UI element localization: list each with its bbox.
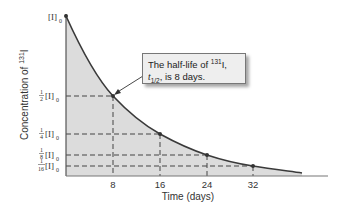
svg-text:1: 1 — [40, 158, 43, 164]
svg-text:0: 0 — [56, 156, 59, 162]
svg-text:0: 0 — [56, 167, 59, 173]
half-life-chart: 8 16 24 32 Time (days) [I] 0 1 2 [I] 0 1… — [0, 0, 345, 207]
svg-text:1: 1 — [40, 127, 43, 133]
x-tick-24: 24 — [202, 179, 213, 190]
half-life-callout: The half-life of 131I, t1/2, is 8 days. — [142, 53, 246, 84]
callout-line-1: The half-life of 131I, — [148, 56, 240, 71]
callout-line-2: t1/2, is 8 days. — [148, 71, 240, 87]
callout-arrowhead — [114, 89, 121, 95]
svg-text:[I]: [I] — [45, 91, 54, 101]
svg-text:[I]: [I] — [45, 150, 54, 160]
svg-text:1: 1 — [40, 89, 43, 95]
svg-text:[I]: [I] — [48, 12, 57, 22]
svg-text:16: 16 — [38, 166, 44, 172]
svg-text:0: 0 — [56, 97, 59, 103]
callout-pointer — [116, 76, 143, 93]
y-tick-top: [I] 0 — [48, 12, 62, 24]
x-tick-32: 32 — [248, 179, 259, 190]
svg-text:1: 1 — [40, 147, 43, 153]
y-tick-half: 1 2 [I] 0 — [39, 89, 59, 103]
x-tick-8: 8 — [110, 179, 115, 190]
svg-text:0: 0 — [56, 135, 59, 141]
x-tick-16: 16 — [155, 179, 166, 190]
svg-text:2: 2 — [40, 96, 43, 102]
svg-text:4: 4 — [40, 134, 43, 140]
svg-text:0: 0 — [59, 18, 62, 24]
svg-text:[I]: [I] — [45, 129, 54, 139]
svg-text:Concentration of 131I: Concentration of 131I — [18, 49, 30, 140]
svg-text:[I]: [I] — [45, 161, 54, 171]
y-tick-quarter: 1 4 [I] 0 — [39, 127, 59, 141]
y-axis-title: Concentration of 131I — [18, 49, 30, 140]
x-axis-title: Time (days) — [162, 191, 214, 202]
